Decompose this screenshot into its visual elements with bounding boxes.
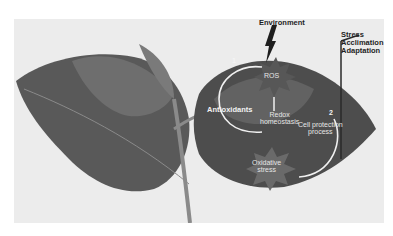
outcome-label: Stress Acclimation Adaptation bbox=[341, 31, 384, 55]
step-1-number: 1 bbox=[232, 57, 236, 64]
antioxidants-label: Antioxidants bbox=[207, 106, 252, 114]
ros-label: ROS bbox=[264, 72, 279, 79]
environment-label: Environment bbox=[259, 19, 305, 27]
leaf-photo-background: 1 ROS Antioxidants Redox homeostasis 2 C… bbox=[14, 19, 384, 223]
oxidative-stress-label: Oxidative stress bbox=[252, 159, 281, 174]
cell-protection-label: Cell protection process bbox=[298, 121, 343, 136]
step-2-number: 2 bbox=[329, 109, 333, 116]
redox-homeostasis-label: Redox homeostasis bbox=[260, 111, 299, 126]
